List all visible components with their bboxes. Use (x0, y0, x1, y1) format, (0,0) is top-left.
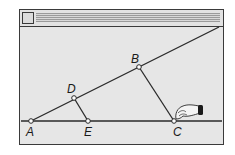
label-D: D (67, 82, 76, 96)
hand-drag-icon (176, 105, 203, 119)
point-A[interactable] (29, 119, 34, 124)
label-C: C (173, 125, 182, 139)
label-A: A (25, 125, 34, 139)
segment-BC[interactable] (139, 67, 174, 121)
point-E[interactable] (86, 119, 91, 124)
segment-DE[interactable] (74, 98, 88, 121)
label-B: B (131, 52, 139, 66)
point-C[interactable] (172, 119, 177, 124)
sketch-canvas[interactable]: A E C D B (0, 0, 235, 155)
point-D[interactable] (72, 96, 77, 101)
label-E: E (84, 125, 93, 139)
